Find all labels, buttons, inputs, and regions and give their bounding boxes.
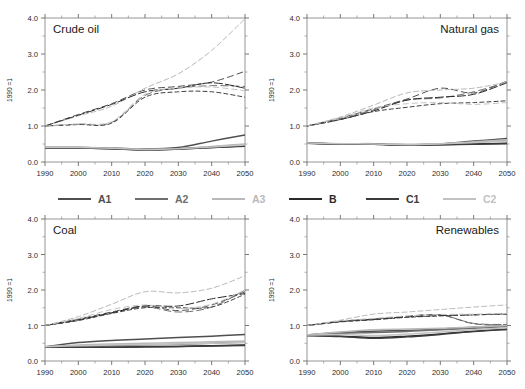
x-tick-label: 2050 — [499, 368, 516, 377]
y-tick-label: 2.0 — [27, 86, 38, 95]
x-tick-label: 2020 — [399, 368, 416, 377]
y-tick-label: 3.0 — [289, 50, 300, 59]
plot-frame — [307, 219, 507, 361]
x-tick-label: 2020 — [399, 169, 416, 178]
x-tick-label: 2050 — [237, 368, 254, 377]
x-tick-label: 2050 — [499, 169, 516, 178]
x-tick-label: 2040 — [465, 368, 482, 377]
y-tick-label: 0.0 — [27, 158, 38, 167]
x-tick-label: 2030 — [170, 169, 187, 178]
y-tick-label: 4.0 — [27, 215, 38, 224]
x-tick-label: 2040 — [203, 368, 220, 377]
x-tick-label: 1990 — [299, 169, 316, 178]
y-tick-label: 0.0 — [289, 158, 300, 167]
panel-title: Crude oil — [53, 23, 99, 35]
y-tick-label: 4.0 — [289, 14, 300, 23]
y-tick-label: 1.0 — [289, 322, 300, 331]
y-tick-label: 3.0 — [27, 50, 38, 59]
x-tick-label: 2010 — [103, 169, 120, 178]
y-tick-label: 0.0 — [289, 357, 300, 366]
chart-panel-renewables: 0.01.02.03.04.01990200020102020203020402… — [262, 205, 525, 389]
y-tick-label: 1.0 — [27, 322, 38, 331]
y-tick-label: 2.0 — [27, 286, 38, 295]
x-tick-label: 2050 — [237, 169, 254, 178]
chart-panel-crude-oil: 0.01.02.03.04.01990200020102020203020402… — [0, 4, 263, 190]
legend-label-c2: C2 — [483, 193, 497, 205]
x-tick-label: 2000 — [70, 169, 87, 178]
legend-label-a1: A1 — [98, 193, 112, 205]
figure-root: 0.01.02.03.04.01990200020102020203020402… — [0, 0, 525, 389]
chart-panel-natural-gas: 0.01.02.03.04.01990200020102020203020402… — [262, 4, 525, 190]
y-tick-label: 2.0 — [289, 86, 300, 95]
legend-label-a3: A3 — [252, 193, 266, 205]
y-tick-label: 2.0 — [289, 286, 300, 295]
x-tick-label: 2000 — [332, 169, 349, 178]
x-tick-label: 2040 — [465, 169, 482, 178]
x-tick-label: 2000 — [70, 368, 87, 377]
y-axis-label: 1990 =1 — [6, 278, 13, 302]
x-tick-label: 2040 — [203, 169, 220, 178]
x-tick-label: 2030 — [170, 368, 187, 377]
x-tick-label: 1990 — [299, 368, 316, 377]
y-tick-label: 3.0 — [27, 251, 38, 260]
x-tick-label: 1990 — [37, 368, 54, 377]
y-tick-label: 1.0 — [27, 122, 38, 131]
x-tick-label: 2010 — [103, 368, 120, 377]
y-tick-label: 4.0 — [289, 215, 300, 224]
x-tick-label: 1990 — [37, 169, 54, 178]
y-tick-label: 1.0 — [289, 122, 300, 131]
panel-title: Renewables — [436, 224, 500, 236]
y-tick-label: 3.0 — [289, 251, 300, 260]
x-tick-label: 2020 — [137, 368, 154, 377]
y-tick-label: 4.0 — [27, 14, 38, 23]
x-tick-label: 2020 — [137, 169, 154, 178]
y-axis-label: 1990 =1 — [268, 278, 275, 302]
legend-label-a2: A2 — [175, 193, 189, 205]
y-tick-label: 0.0 — [27, 357, 38, 366]
x-tick-label: 2030 — [432, 368, 449, 377]
panel-title: Coal — [53, 224, 77, 236]
x-tick-label: 2000 — [332, 368, 349, 377]
y-axis-label: 1990 =1 — [6, 78, 13, 102]
chart-panel-coal: 0.01.02.03.04.01990200020102020203020402… — [0, 205, 263, 389]
y-axis-label: 1990 =1 — [268, 78, 275, 102]
legend-label-b: B — [329, 193, 337, 205]
x-tick-label: 2010 — [365, 368, 382, 377]
x-tick-label: 2030 — [432, 169, 449, 178]
panel-title: Natural gas — [440, 23, 499, 35]
legend-label-c1: C1 — [406, 193, 420, 205]
x-tick-label: 2010 — [365, 169, 382, 178]
